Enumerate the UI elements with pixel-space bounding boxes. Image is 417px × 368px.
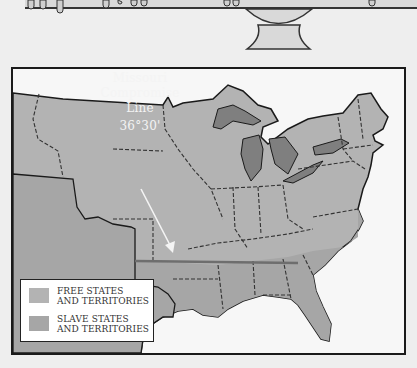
legend-free-line1: FREE STATES [57, 286, 149, 296]
label-line-3: Line [95, 101, 185, 116]
missouri-compromise-map: Missouri Compromise Line 36°30' FREE STA… [11, 67, 406, 355]
compromise-line-label: Missouri Compromise Line [95, 71, 185, 116]
slave-states-swatch [29, 316, 49, 331]
legend-slave-line2: AND TERRITORIES [57, 324, 149, 334]
scale-bowl [246, 9, 312, 24]
legend-free-line2: AND TERRITORIES [57, 296, 149, 306]
legend-slave-line1: SLAVE STATES [57, 314, 149, 324]
label-line-1: Missouri [95, 71, 185, 86]
map-legend: FREE STATES AND TERRITORIES SLAVE STATES… [20, 279, 154, 342]
label-line-2: Compromise [95, 86, 185, 101]
legend-item-free: FREE STATES AND TERRITORIES [29, 286, 149, 306]
scale-base [247, 25, 310, 49]
legend-item-slave: SLAVE STATES AND TERRITORIES [29, 314, 149, 334]
free-states-swatch [29, 288, 49, 303]
latitude-label: 36°30' [95, 119, 185, 134]
balance-scale-illustration [0, 0, 417, 55]
